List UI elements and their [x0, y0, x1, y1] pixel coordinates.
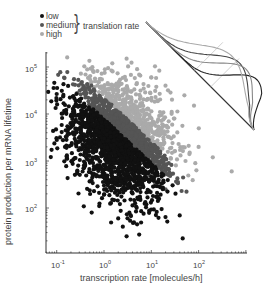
scatter-point	[92, 189, 96, 193]
scatter-plot	[0, 0, 266, 301]
scatter-point	[166, 88, 170, 92]
scatter-point	[107, 87, 111, 91]
scatter-point	[155, 98, 159, 102]
scatter-point	[126, 185, 130, 189]
scatter-point	[97, 191, 101, 195]
scatter-point	[135, 222, 139, 226]
scatter-point	[104, 161, 108, 165]
y-axis-title: protein production per mRNA lifetime	[3, 65, 13, 245]
scatter-point	[102, 137, 106, 141]
y-tick-1e2: 102	[25, 203, 37, 214]
scatter-point	[87, 144, 91, 148]
scatter-point	[175, 157, 179, 161]
scatter-point	[230, 169, 234, 173]
scatter-point	[126, 172, 130, 176]
scatter-point	[55, 146, 59, 150]
scatter-point	[91, 113, 95, 117]
scatter-point	[151, 194, 155, 198]
scatter-point	[72, 77, 76, 81]
scatter-point	[61, 82, 65, 86]
scatter-point	[177, 142, 181, 146]
scatter-point	[165, 190, 169, 194]
scatter-point	[178, 148, 182, 152]
scatter-point	[73, 142, 77, 146]
scatter-point	[62, 76, 66, 80]
scatter-point	[109, 144, 113, 148]
scatter-point	[125, 216, 129, 220]
scatter-point	[130, 106, 134, 110]
x-tick-1e1: 101	[146, 259, 158, 270]
scatter-point	[82, 64, 86, 68]
scatter-point	[174, 180, 178, 184]
scatter-point	[169, 157, 173, 161]
scatter-point	[110, 184, 114, 188]
scatter-point	[90, 119, 94, 123]
scatter-point	[172, 117, 176, 121]
scatter-point	[82, 163, 86, 167]
scatter-point	[61, 138, 65, 142]
scatter-point	[97, 80, 101, 84]
scatter-point	[89, 84, 93, 88]
scatter-point	[117, 97, 121, 101]
scatter-point	[89, 170, 93, 174]
x-tick-1e0: 100	[99, 259, 111, 270]
scatter-point	[100, 174, 104, 178]
scatter-point	[187, 144, 191, 148]
scatter-points	[46, 55, 234, 240]
scatter-point	[55, 102, 59, 106]
scatter-point	[121, 98, 125, 102]
scatter-point	[75, 168, 79, 172]
scatter-point	[54, 106, 58, 110]
scatter-point	[113, 98, 117, 102]
scatter-point	[97, 141, 101, 145]
scatter-point	[155, 138, 159, 142]
scatter-point	[115, 193, 119, 197]
scatter-point	[172, 149, 176, 153]
scatter-point	[66, 176, 70, 180]
scatter-point	[102, 184, 106, 188]
scatter-point	[133, 76, 137, 80]
scatter-point	[144, 122, 148, 126]
scatter-point	[84, 173, 88, 177]
scatter-point	[50, 148, 54, 152]
scatter-point	[106, 138, 110, 142]
scatter-point	[71, 110, 75, 114]
scatter-point	[89, 159, 93, 163]
scatter-point	[116, 120, 120, 124]
scatter-point	[140, 101, 144, 105]
scatter-point	[119, 180, 123, 184]
scatter-point	[118, 143, 122, 147]
scatter-point	[126, 118, 130, 122]
scatter-point	[111, 165, 115, 169]
scatter-point	[163, 166, 167, 170]
scatter-point	[157, 69, 161, 73]
scatter-point	[73, 131, 77, 135]
scatter-point	[121, 225, 125, 229]
scatter-point	[93, 134, 97, 138]
scatter-point	[83, 95, 87, 99]
scatter-point	[125, 57, 129, 61]
scatter-point	[112, 138, 116, 142]
scatter-point	[95, 173, 99, 177]
scatter-point	[146, 151, 150, 155]
scatter-point	[160, 158, 164, 162]
scatter-point	[112, 131, 116, 135]
scatter-point	[80, 122, 84, 126]
scatter-point	[137, 182, 141, 186]
scatter-point	[120, 148, 124, 152]
scatter-point	[125, 234, 129, 238]
scatter-point	[64, 164, 68, 168]
scatter-point	[79, 96, 83, 100]
scatter-point	[134, 205, 138, 209]
scatter-point	[130, 101, 134, 105]
scatter-point	[192, 104, 196, 108]
scatter-point	[153, 184, 157, 188]
scatter-point	[116, 189, 120, 193]
scatter-point	[161, 185, 165, 189]
scatter-point	[90, 89, 94, 93]
scatter-point	[81, 169, 85, 173]
scatter-point	[149, 201, 153, 205]
scatter-point	[109, 135, 113, 139]
scatter-point	[103, 151, 107, 155]
scatter-point	[153, 64, 157, 68]
